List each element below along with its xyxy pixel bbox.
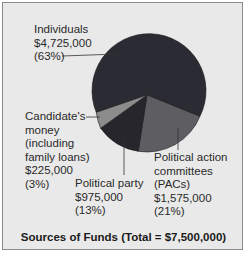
label-party-amount: $975,000 bbox=[75, 191, 123, 203]
label-candidate-name-2: money bbox=[25, 124, 60, 136]
label-pacs-name-2: committees bbox=[154, 165, 213, 177]
label-candidate-name-3: (including bbox=[25, 137, 74, 149]
label-party-percent: (13%) bbox=[75, 204, 106, 216]
label-individuals-amount: $4,725,000 bbox=[34, 37, 92, 49]
label-individuals: Individuals $4,725,000 (63%) bbox=[34, 23, 92, 64]
label-party-name: Political party bbox=[75, 177, 143, 189]
label-individuals-percent: (63%) bbox=[34, 50, 65, 62]
chart-title: Sources of Funds (Total = $7,500,000) bbox=[0, 231, 247, 243]
label-pacs-percent: (21%) bbox=[154, 205, 185, 217]
label-pacs: Political action committees (PACs) $1,57… bbox=[154, 151, 228, 219]
label-candidate-name-4: family loans) bbox=[25, 151, 90, 163]
label-political-party: Political party $975,000 (13%) bbox=[75, 177, 143, 218]
label-candidate-amount: $225,000 bbox=[25, 164, 73, 176]
label-candidate-percent: (3%) bbox=[25, 178, 49, 190]
label-pacs-name-3: (PACs) bbox=[154, 178, 190, 190]
label-pacs-amount: $1,575,000 bbox=[154, 192, 212, 204]
label-candidate-name-1: Candidate's bbox=[25, 110, 85, 122]
label-individuals-name: Individuals bbox=[34, 23, 88, 35]
label-pacs-name-1: Political action bbox=[154, 151, 228, 163]
